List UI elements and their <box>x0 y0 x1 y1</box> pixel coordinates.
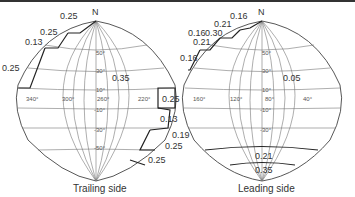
caption-leading: Leading side <box>238 184 295 194</box>
lat-tick: -30° <box>260 127 271 133</box>
value-label: 0.13 <box>25 38 43 47</box>
value-label: 0.05 <box>283 74 301 83</box>
lon-tick: 80° <box>265 96 274 102</box>
lon-tick: 260° <box>97 96 109 102</box>
caption-trailing: Trailing side <box>73 184 127 194</box>
value-label: 0.25 <box>162 95 180 104</box>
lat-tick: -30° <box>94 127 105 133</box>
value-label: 0.19 <box>172 131 190 140</box>
value-label: 0.25 <box>148 156 166 165</box>
value-label: 0.35 <box>112 74 130 83</box>
north-label-leading: N <box>258 7 265 17</box>
value-label: 0.21 <box>193 38 211 47</box>
lat-tick: 10° <box>262 87 271 93</box>
lat-tick: 30° <box>262 68 271 74</box>
value-label: 0.25 <box>60 12 78 21</box>
value-label: 0.21 <box>255 152 273 161</box>
lon-tick: 220° <box>138 96 150 102</box>
north-label-trailing: N <box>92 7 99 17</box>
value-label: 0.25 <box>40 28 58 37</box>
lat-tick: 50° <box>96 50 105 56</box>
lon-tick: 160° <box>193 96 205 102</box>
lat-tick: -10° <box>260 107 271 113</box>
value-label: 0.35 <box>255 166 273 175</box>
value-label: 0.16 <box>230 12 248 21</box>
value-label: 0.13 <box>160 115 178 124</box>
lat-tick: -50° <box>94 145 105 151</box>
lat-tick: 10° <box>96 87 105 93</box>
value-label: 0.16 <box>180 54 198 63</box>
lon-tick: 40° <box>303 96 312 102</box>
lon-tick: 340° <box>26 96 38 102</box>
lat-tick: 50° <box>262 50 271 56</box>
value-label: 0.25 <box>2 64 20 73</box>
value-label: 0.25 <box>165 142 183 151</box>
lat-tick: 30° <box>96 68 105 74</box>
lat-tick: -10° <box>94 107 105 113</box>
lon-tick: 120° <box>230 96 242 102</box>
lon-tick: 300° <box>62 96 74 102</box>
